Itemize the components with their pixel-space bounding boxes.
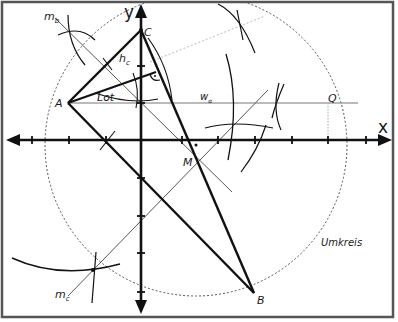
geometry-drawing: y x C A B M Q mb mc hc Lot wα Umkreis — [0, 0, 398, 322]
x-axis-arrow-left — [6, 134, 20, 146]
y-axis-arrow-down — [135, 300, 147, 314]
arc-x-cross-1 — [276, 83, 281, 130]
arc-large-2 — [205, 124, 273, 128]
right-angle-dot — [154, 75, 156, 77]
point-c-label: C — [144, 26, 152, 39]
side-ab — [68, 103, 254, 293]
lot-label: Lot — [97, 91, 115, 104]
perpendicular-bisector-mc — [68, 90, 268, 296]
perpendicular-bisector-mb — [55, 18, 232, 192]
arc-mb-2 — [68, 15, 85, 65]
arc-top-2 — [237, 10, 243, 40]
point-b-label: B — [257, 294, 265, 307]
side-bc — [141, 30, 254, 293]
arc-bc — [148, 38, 172, 100]
y-axis-label: y — [124, 2, 134, 22]
arc-top-1 — [218, 4, 255, 53]
circumcircle-label: Umkreis — [321, 237, 362, 248]
right-angle-mark — [150, 74, 160, 80]
point-lower-intersect — [91, 268, 95, 272]
x-axis-label: x — [378, 117, 388, 137]
mb-label: mb — [44, 10, 60, 25]
arc-lower-left-2 — [92, 252, 96, 303]
circumcircle — [45, 0, 347, 296]
point-c-marker — [139, 28, 143, 32]
faint-construction-line — [150, 16, 265, 62]
diagram-canvas: y x C A B M Q mb mc hc Lot wα Umkreis — [0, 0, 398, 322]
point-a-label: A — [54, 97, 63, 110]
arc-large-1 — [226, 54, 234, 160]
hc-label: hc — [119, 52, 130, 67]
point-m-marker — [195, 144, 198, 147]
mc-label: mc — [55, 288, 70, 303]
y-axis-arrow-up — [135, 4, 147, 18]
wa-label: wα — [200, 91, 212, 104]
arc-right-lower — [241, 125, 266, 172]
point-m-label: M — [183, 156, 193, 169]
point-q-label: Q — [328, 92, 337, 105]
